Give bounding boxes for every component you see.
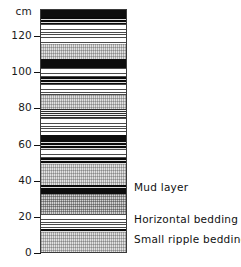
annotation-horizontal-bedding: Horizontal bedding (134, 213, 238, 225)
lithology-band (41, 44, 126, 58)
core-column (40, 9, 127, 253)
axis-tick-label: 0 (25, 246, 32, 258)
lithology-band (41, 84, 126, 95)
annotation-mud-layer: Mud layer (134, 181, 188, 193)
lithology-band (41, 214, 126, 228)
lithology-band (41, 59, 126, 68)
lithology-band (41, 24, 126, 44)
lithology-band (41, 68, 126, 77)
depth-axis: cm 020406080100120 (0, 0, 41, 267)
axis-tick-mark (34, 253, 41, 254)
axis-tick-label: 120 (11, 29, 32, 41)
stratigraphic-column-figure: cm 020406080100120 Mud layerHorizontal b… (0, 0, 241, 267)
lithology-band (41, 109, 126, 118)
axis-tick-label: 80 (18, 101, 32, 113)
lithology-band (41, 95, 126, 109)
lithology-band (41, 140, 126, 149)
annotation-small-ripple-bedding: Small ripple bedding (134, 233, 241, 245)
axis-tick-label: 60 (18, 138, 32, 150)
lithology-band (41, 232, 126, 253)
lithology-band (41, 164, 126, 186)
lithology-band (41, 194, 126, 214)
lithology-band (41, 10, 126, 17)
axis-tick-label: 20 (18, 210, 32, 222)
axis-tick-label: 40 (18, 174, 32, 186)
lithology-band (41, 118, 126, 134)
axis-unit-label: cm (16, 5, 32, 17)
lithology-band (41, 149, 126, 158)
lithology-band (41, 77, 126, 84)
axis-tick-label: 100 (11, 65, 32, 77)
lithology-band (41, 17, 126, 24)
